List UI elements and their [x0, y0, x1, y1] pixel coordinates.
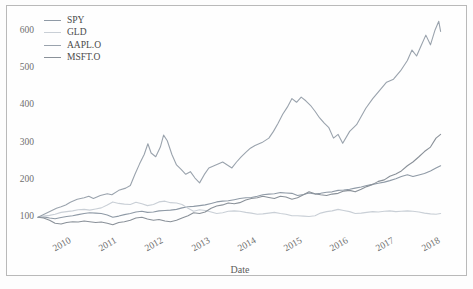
y-tick-label: 500: [4, 63, 34, 73]
legend-color-swatch: [44, 57, 61, 58]
x-tick-label: 2015: [282, 236, 303, 254]
figure: 100200300400500600 201020112012201320142…: [0, 0, 473, 289]
series-line-gld: [38, 201, 441, 217]
x-tick-label: 2017: [375, 236, 396, 254]
legend-item-label: GLD: [67, 28, 87, 38]
x-tick-label: 2014: [236, 236, 257, 254]
x-tick-label: 2012: [144, 236, 165, 254]
x-axis-tick-labels: 201020112012201320142015201620172018: [38, 236, 442, 266]
chart-page: 100200300400500600 201020112012201320142…: [0, 0, 473, 289]
y-tick-label: 600: [4, 26, 34, 36]
legend-item-label: AAPL.O: [67, 41, 101, 51]
x-axis-title: Date: [38, 264, 442, 275]
x-tick-label: 2013: [190, 236, 211, 254]
y-tick-label: 200: [4, 175, 34, 185]
y-tick-label: 100: [4, 212, 34, 222]
y-axis-tick-labels: 100200300400500600: [0, 12, 34, 234]
legend-color-swatch: [44, 20, 61, 21]
x-tick-label: 2018: [421, 236, 442, 254]
legend-item-msft-o[interactable]: MSFT.O: [44, 52, 120, 65]
legend-color-swatch: [44, 45, 61, 46]
legend-item-gld[interactable]: GLD: [44, 27, 120, 40]
y-tick-label: 400: [4, 101, 34, 111]
legend-item-aapl-o[interactable]: AAPL.O: [44, 39, 120, 52]
legend-item-label: SPY: [67, 16, 84, 26]
legend-color-swatch: [44, 32, 61, 33]
legend-item-spy[interactable]: SPY: [44, 14, 120, 27]
x-tick-label: 2011: [98, 236, 119, 254]
chart-legend: SPYGLDAAPL.OMSFT.O: [44, 14, 120, 64]
y-tick-label: 300: [4, 138, 34, 148]
legend-item-label: MSFT.O: [67, 53, 100, 63]
x-tick-label: 2016: [329, 236, 350, 254]
x-tick-label: 2010: [52, 236, 73, 254]
